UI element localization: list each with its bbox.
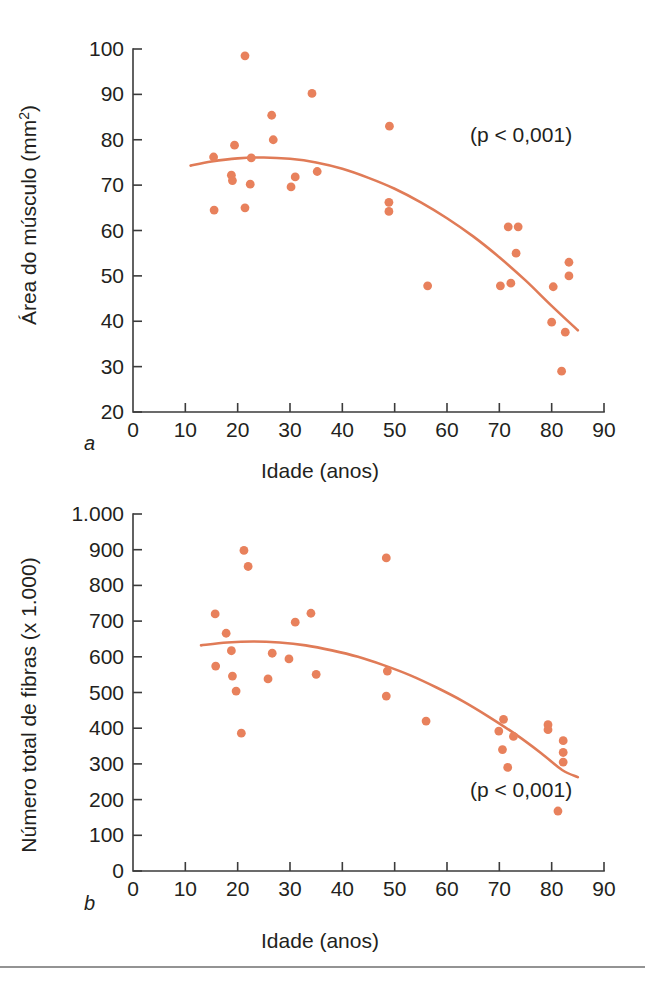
y-tick-label: 30 (101, 355, 124, 378)
scatter-point (503, 763, 512, 772)
scatter-point (313, 167, 322, 176)
x-tick-label: 60 (435, 418, 458, 441)
y-axis-ticks (133, 514, 142, 871)
scatter-point (382, 554, 391, 563)
x-tick-label: 70 (488, 877, 511, 900)
y-axis-tick-labels: 2030405060708090100 (89, 37, 124, 423)
scatter-point (385, 122, 394, 131)
x-tick-label: 20 (226, 877, 249, 900)
scatter-point (561, 328, 570, 337)
y-tick-label: 0 (112, 859, 124, 882)
scatter-point (496, 281, 505, 290)
scatter-points (209, 51, 573, 375)
x-axis-tick-labels: 0102030405060708090 (127, 877, 616, 900)
chart-panel-a: 2030405060708090100 0102030405060708090 … (0, 0, 645, 490)
scatter-point (241, 203, 250, 212)
y-tick-label: 20 (101, 400, 124, 423)
x-tick-label: 0 (127, 877, 139, 900)
x-tick-label: 90 (592, 877, 615, 900)
x-tick-label: 0 (127, 418, 139, 441)
x-tick-label: 50 (383, 877, 406, 900)
x-tick-label: 50 (383, 418, 406, 441)
scatter-points (211, 546, 568, 815)
x-tick-label: 20 (226, 418, 249, 441)
scatter-point (247, 154, 256, 163)
p-value-annotation: (p < 0,001) (470, 778, 572, 801)
y-tick-label: 600 (89, 645, 124, 668)
y-tick-label: 40 (101, 309, 124, 332)
scatter-point (565, 258, 574, 267)
scatter-point (227, 646, 236, 655)
scatter-point (549, 282, 558, 291)
scatter-point (554, 807, 563, 816)
y-tick-label: 200 (89, 788, 124, 811)
panel-letter-a: a (84, 432, 95, 454)
scatter-point (264, 675, 273, 684)
x-tick-label: 30 (278, 418, 301, 441)
scatter-point (544, 725, 553, 734)
y-tick-label: 100 (89, 37, 124, 60)
scatter-point (308, 89, 317, 98)
y-tick-label: 500 (89, 681, 124, 704)
y-tick-label: 100 (89, 823, 124, 846)
y-tick-label: 50 (101, 264, 124, 287)
scatter-point (269, 135, 278, 144)
y-tick-label: 60 (101, 219, 124, 242)
y-axis-ticks (133, 49, 142, 412)
y-tick-label: 300 (89, 752, 124, 775)
panel-b-axes (133, 514, 604, 871)
scatter-point (287, 183, 296, 192)
y-tick-label: 400 (89, 716, 124, 739)
scatter-point (228, 672, 237, 681)
scatter-point (494, 727, 503, 736)
scatter-point (230, 141, 239, 150)
panel-b-svg: 01002003004005006007008009001.000 010203… (0, 490, 645, 981)
scatter-point (506, 279, 515, 288)
scatter-point (222, 629, 231, 638)
x-tick-label: 10 (174, 877, 197, 900)
y-axis-title-tail: ) (17, 105, 40, 112)
x-tick-label: 40 (331, 418, 354, 441)
y-tick-label: 70 (101, 173, 124, 196)
scatter-point (285, 655, 294, 664)
scatter-point (565, 271, 574, 280)
x-tick-label: 10 (174, 418, 197, 441)
scatter-point (385, 207, 394, 216)
scatter-point (267, 111, 276, 120)
scatter-point (559, 736, 568, 745)
x-axis-tick-labels: 0102030405060708090 (127, 418, 616, 441)
y-tick-label: 900 (89, 538, 124, 561)
scatter-point (514, 222, 523, 231)
scatter-point (291, 618, 300, 627)
panel-letter-b: b (84, 892, 95, 914)
y-tick-label: 1.000 (71, 502, 124, 525)
y-tick-label: 800 (89, 573, 124, 596)
scatter-point (211, 610, 220, 619)
scatter-point (228, 176, 237, 185)
x-axis-title: Idade (anos) (261, 929, 379, 952)
x-tick-label: 60 (435, 877, 458, 900)
scatter-point (291, 173, 300, 182)
scatter-point (312, 670, 321, 679)
scatter-point (246, 180, 255, 189)
y-axis-title: Área do músculo (mm2) (16, 105, 40, 325)
scatter-point (559, 748, 568, 757)
scatter-point (547, 318, 556, 327)
scatter-point (423, 281, 432, 290)
x-tick-label: 80 (540, 418, 563, 441)
p-value-annotation: (p < 0,001) (470, 123, 572, 146)
scatter-point (383, 667, 392, 676)
scatter-point (557, 367, 566, 376)
x-tick-label: 40 (331, 877, 354, 900)
scatter-point (241, 51, 250, 60)
scatter-point (504, 222, 513, 231)
scatter-point (307, 609, 316, 618)
scatter-point (385, 198, 394, 207)
scatter-point (232, 687, 241, 696)
panel-a-svg: 2030405060708090100 0102030405060708090 … (0, 0, 645, 490)
scatter-point (240, 546, 249, 555)
axis-lines (133, 49, 604, 412)
y-axis-title-superscript: 2 (16, 112, 32, 120)
scatter-point (237, 729, 246, 738)
scatter-point (498, 745, 507, 754)
